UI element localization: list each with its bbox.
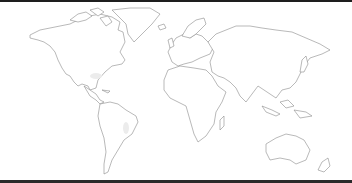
- new-zealand: [318, 158, 330, 172]
- south-america: [98, 102, 138, 174]
- southeast-asia-islands: [262, 100, 312, 118]
- british-isles: [168, 38, 174, 48]
- north-america: [30, 14, 125, 90]
- madagascar: [220, 116, 224, 130]
- world-map: [0, 2, 352, 180]
- australia: [266, 134, 310, 164]
- shade-spot: [123, 122, 129, 134]
- europe: [168, 34, 214, 66]
- scandinavia: [182, 18, 206, 38]
- caribbean: [102, 90, 110, 93]
- iceland: [158, 24, 166, 30]
- africa: [164, 66, 226, 142]
- asia: [208, 26, 330, 102]
- shade-spot: [90, 73, 102, 79]
- bottom-frame-bar: [0, 180, 352, 183]
